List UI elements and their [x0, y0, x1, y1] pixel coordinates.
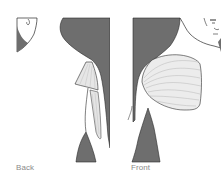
back-view-panel [0, 0, 110, 187]
lower-torso-back [76, 132, 96, 162]
lower-torso-front [132, 108, 160, 162]
teres-muscle [75, 62, 98, 90]
front-view-panel [110, 0, 221, 187]
back-view-illustration [0, 0, 110, 187]
arm-contour-front [128, 106, 132, 120]
front-view-illustration [110, 0, 221, 187]
jaw-line [204, 18, 207, 26]
front-label: Front [131, 163, 150, 172]
neck-shadow-front [218, 38, 221, 52]
face-front [208, 18, 221, 40]
back-label: Back [16, 163, 34, 172]
arm-contour-back [85, 88, 88, 132]
